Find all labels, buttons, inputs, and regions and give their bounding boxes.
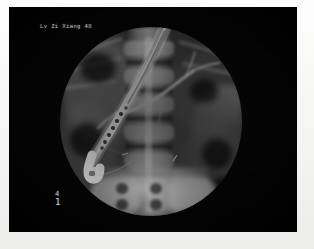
duodenoscope-overlay xyxy=(60,27,242,216)
frame-marker-overlay: 4 1 xyxy=(55,191,60,208)
frame-marker-number: 1 xyxy=(55,198,60,207)
radiograph-canvas: Lv Zi Xiang 48 4 1 xyxy=(9,7,297,232)
fluoroscopy-field-of-view xyxy=(60,27,242,216)
cannulation-catheter xyxy=(100,161,132,175)
endoscope-elevator xyxy=(89,171,95,176)
patient-name-overlay: Lv Zi Xiang 48 xyxy=(40,23,92,29)
fluoroscopy-image-viewer: Lv Zi Xiang 48 4 1 xyxy=(0,0,314,249)
